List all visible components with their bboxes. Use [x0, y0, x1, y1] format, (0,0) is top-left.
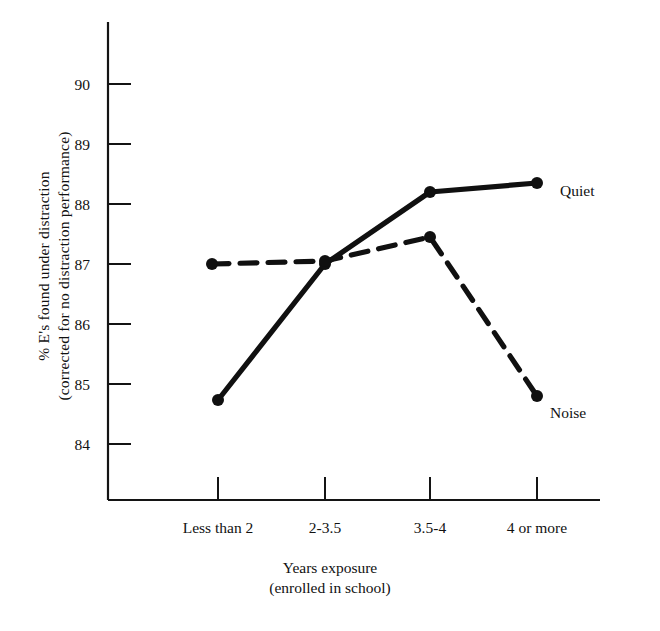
line-chart-figure: % E's found under distraction (corrected…: [0, 0, 660, 631]
series-noise-point-4: [531, 390, 543, 402]
x-axis-ticks: [218, 477, 537, 500]
series-quiet: [212, 177, 543, 406]
series-noise-line: [212, 237, 537, 396]
series-noise-point-2: [319, 255, 331, 267]
series-quiet-line: [218, 183, 537, 400]
y-axis-ticks: [108, 84, 131, 444]
series-noise: [206, 231, 543, 402]
series-noise-point-1: [206, 258, 218, 270]
series-quiet-point-1: [212, 394, 224, 406]
series-quiet-point-4: [531, 177, 543, 189]
series-noise-point-3: [424, 231, 436, 243]
chart-plot-area: [0, 0, 660, 631]
series-quiet-point-3: [424, 186, 436, 198]
